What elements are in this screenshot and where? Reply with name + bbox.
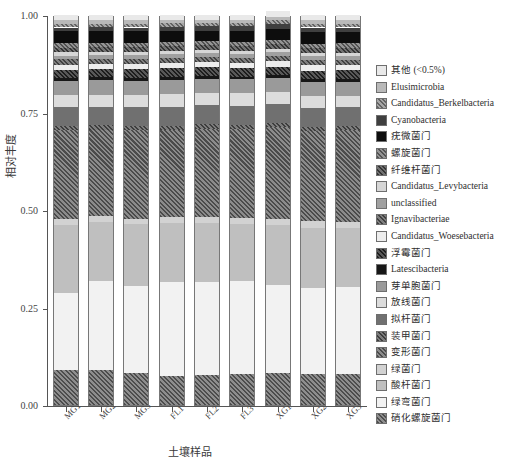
legend-item[interactable]: 装甲菌门 xyxy=(376,330,506,347)
bar-segment xyxy=(266,20,290,24)
bar-segment xyxy=(195,223,219,282)
bar-segment xyxy=(89,24,113,28)
bar-segment xyxy=(160,107,184,126)
bar-segment xyxy=(89,281,113,370)
legend-item[interactable]: Ignavibacteriae xyxy=(376,213,506,230)
legend-swatch xyxy=(376,314,387,325)
legend-item[interactable]: 纤维杆菌门 xyxy=(376,164,506,181)
bar-segment xyxy=(160,31,184,42)
legend-item[interactable]: 放线菌门 xyxy=(376,296,506,313)
bar-segment xyxy=(266,75,290,78)
bar-column[interactable] xyxy=(159,16,185,406)
legend-item[interactable]: 变形菌门 xyxy=(376,346,506,363)
bar-segment xyxy=(124,107,148,125)
bar-segment xyxy=(266,67,290,76)
y-tick-label: 0.50 xyxy=(0,206,38,216)
legend-item[interactable]: Cyanobacteria xyxy=(376,114,506,131)
bar-segment xyxy=(160,282,184,376)
bar-segment xyxy=(160,63,184,68)
legend-swatch xyxy=(376,115,387,126)
bar-column[interactable] xyxy=(194,16,220,406)
bar-column[interactable] xyxy=(88,16,114,406)
bar-segment xyxy=(89,95,113,107)
bar-segment xyxy=(195,79,219,93)
legend-item[interactable]: unclassified xyxy=(376,197,506,214)
y-tick-label: 0.00 xyxy=(0,401,38,411)
bar-segment xyxy=(160,126,184,130)
bar-segment xyxy=(301,44,325,48)
legend-item[interactable]: 绿菌门 xyxy=(376,363,506,380)
bar-segment xyxy=(266,49,290,52)
bar-segment xyxy=(195,375,219,405)
bar-segment xyxy=(336,28,360,33)
bar-segment xyxy=(89,69,113,78)
bar-segment xyxy=(336,222,360,228)
bar-segment xyxy=(336,374,360,405)
bar-column[interactable] xyxy=(300,16,326,406)
legend-swatch xyxy=(376,231,387,242)
legend-item[interactable]: 其他 (<0.5%) xyxy=(376,64,506,81)
bar-segment xyxy=(124,31,148,43)
legend-item[interactable]: 酸杆菌门 xyxy=(376,379,506,396)
bar-segment xyxy=(195,217,219,223)
bar-segment xyxy=(195,50,219,53)
legend-item[interactable]: Latescibacteria xyxy=(376,263,506,280)
bar-segment xyxy=(54,43,78,47)
bar-column[interactable] xyxy=(335,16,361,406)
bar-segment xyxy=(124,59,148,64)
bar-segment xyxy=(89,59,113,64)
bar-segment xyxy=(124,130,148,219)
bar-segment xyxy=(336,70,360,79)
bar-segment xyxy=(301,288,325,374)
bar-segment xyxy=(89,77,113,80)
bar-segment xyxy=(54,56,78,60)
legend-swatch xyxy=(376,364,387,375)
legend-label: 绿菌门 xyxy=(391,363,421,375)
y-tick-label: 0.25 xyxy=(0,304,38,314)
bar-segment xyxy=(124,373,148,405)
legend-label: Candidatus_Berkelbacteria xyxy=(391,97,494,109)
bar-segment xyxy=(54,225,78,293)
bar-column[interactable] xyxy=(265,16,291,406)
legend-item[interactable]: Candidatus_Woesebacteria xyxy=(376,230,506,247)
bar-segment xyxy=(336,287,360,374)
bar-segment xyxy=(89,47,113,52)
legend-item[interactable]: Candidatus_Levybacteria xyxy=(376,180,506,197)
legend-item[interactable]: 疣微菌门 xyxy=(376,130,506,147)
bar-column[interactable] xyxy=(53,16,79,406)
legend: 其他 (<0.5%)ElusimicrobiaCandidatus_Berkel… xyxy=(376,64,506,429)
bar-segment xyxy=(301,108,325,127)
bar-column[interactable] xyxy=(123,16,149,406)
bar-segment xyxy=(124,47,148,52)
bar-segment xyxy=(89,80,113,95)
legend-swatch xyxy=(376,281,387,292)
bar-segment xyxy=(124,43,148,47)
bar-segment xyxy=(230,224,254,282)
bar-segment xyxy=(336,130,360,221)
bar-segment xyxy=(195,15,219,20)
legend-swatch xyxy=(376,65,387,76)
bar-segment xyxy=(124,64,148,69)
legend-item[interactable]: 芽单胞菌门 xyxy=(376,280,506,297)
legend-item[interactable]: 拟杆菌门 xyxy=(376,313,506,330)
bar-segment xyxy=(336,43,360,47)
legend-label: Candidatus_Woesebacteria xyxy=(391,230,494,242)
bar-segment xyxy=(301,24,325,28)
bar-segment xyxy=(301,53,325,56)
bar-segment xyxy=(230,15,254,20)
bar-segment xyxy=(301,32,325,44)
bar-segment xyxy=(266,61,290,66)
legend-label: 硝化螺旋菌门 xyxy=(391,412,451,424)
legend-item[interactable]: 绿弯菌门 xyxy=(376,396,506,413)
legend-item[interactable]: 硝化螺旋菌门 xyxy=(376,412,506,429)
bar-segment xyxy=(195,282,219,375)
bar-segment xyxy=(160,130,184,217)
bar-column[interactable] xyxy=(229,16,255,406)
legend-item[interactable]: 浮霉菌门 xyxy=(376,247,506,264)
legend-item[interactable]: Candidatus_Berkelbacteria xyxy=(376,97,506,114)
bar-segment xyxy=(301,60,325,65)
bar-segment xyxy=(160,94,184,107)
bar-segment xyxy=(230,93,254,106)
legend-item[interactable]: 螺旋菌门 xyxy=(376,147,506,164)
legend-item[interactable]: Elusimicrobia xyxy=(376,81,506,98)
